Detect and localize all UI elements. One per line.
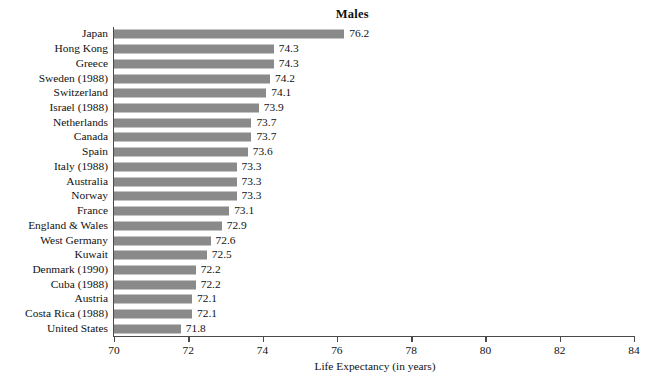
bar (114, 221, 222, 230)
category-label: Norway (71, 191, 108, 202)
bar-value-label: 74.3 (279, 58, 299, 69)
bar-value-label: 72.6 (216, 235, 236, 246)
bar-row: Spain73.6 (0, 145, 668, 160)
category-label: France (77, 205, 108, 216)
bar-row: England & Wales72.9 (0, 218, 668, 233)
bar (114, 30, 344, 39)
bar (114, 310, 192, 319)
bar-value-label: 73.6 (253, 146, 273, 157)
bar (114, 295, 192, 304)
bar-row: France73.1 (0, 204, 668, 219)
bar-row: Israel (1988)73.9 (0, 101, 668, 116)
axis-tick-label: 78 (405, 344, 416, 356)
category-label: Canada (74, 132, 108, 143)
category-label: Kuwait (74, 250, 108, 261)
bar (114, 133, 251, 142)
category-label: Japan (82, 29, 108, 40)
bar (114, 192, 237, 201)
bar-row: Italy (1988)73.3 (0, 160, 668, 175)
bar-value-label: 72.5 (212, 250, 232, 261)
axis-tick-label: 84 (628, 344, 639, 356)
bar-row: Hong Kong74.3 (0, 42, 668, 57)
bar-row: Austria72.1 (0, 292, 668, 307)
bar-row: Greece74.3 (0, 56, 668, 71)
bar-value-label: 72.9 (227, 220, 247, 231)
category-label: Sweden (1988) (39, 73, 108, 84)
bar-row: Denmark (1990)72.2 (0, 263, 668, 278)
bar-row: West Germany72.6 (0, 233, 668, 248)
bar (114, 177, 237, 186)
bar-value-label: 74.2 (275, 73, 295, 84)
bar-value-label: 72.1 (197, 309, 217, 320)
bar-value-label: 74.1 (271, 88, 291, 99)
bar (114, 162, 237, 171)
bar-value-label: 73.1 (234, 205, 254, 216)
category-label: Greece (76, 58, 108, 69)
axis-tick-label: 80 (480, 344, 491, 356)
axis-tick-mark (634, 336, 635, 342)
bar-row: Japan76.2 (0, 27, 668, 42)
axis-tick-mark (485, 336, 486, 342)
bar-row: Kuwait72.5 (0, 248, 668, 263)
bar (114, 207, 229, 216)
bar-value-label: 76.2 (349, 29, 369, 40)
axis-tick-label: 70 (108, 344, 119, 356)
bar (114, 148, 248, 157)
axis-tick-mark (337, 336, 338, 342)
axis-tick-label: 82 (554, 344, 565, 356)
bar-value-label: 71.8 (186, 323, 206, 334)
category-label: United States (47, 323, 108, 334)
axis-tick-label: 76 (331, 344, 342, 356)
bar-value-label: 73.3 (242, 161, 262, 172)
axis-tick-label: 74 (257, 344, 268, 356)
axis-tick-mark (188, 336, 189, 342)
category-label: Israel (1988) (49, 102, 108, 113)
category-label: Cuba (1988) (51, 279, 108, 290)
bar-value-label: 73.7 (256, 117, 276, 128)
category-label: Switzerland (54, 88, 108, 99)
bar (114, 251, 207, 260)
category-label: West Germany (40, 235, 108, 246)
category-label: Denmark (1990) (32, 264, 108, 275)
axis-tick-mark (263, 336, 264, 342)
x-axis-title-text: Life Expectancy (in years) (314, 360, 435, 372)
bar-value-label: 72.2 (201, 264, 221, 275)
plot-area: Japan76.2Hong Kong74.3Greece74.3Sweden (… (0, 0, 668, 385)
bar (114, 236, 211, 245)
category-label: Costa Rica (1988) (25, 309, 108, 320)
bar (114, 266, 196, 275)
axis-tick-mark (411, 336, 412, 342)
bar (114, 45, 274, 54)
bar (114, 118, 251, 127)
bar-row: Costa Rica (1988)72.1 (0, 307, 668, 322)
bar (114, 324, 181, 333)
axis-tick-mark (114, 336, 115, 342)
x-axis-title: Life Expectancy (in years) (0, 360, 668, 372)
bar-row: Sweden (1988)74.2 (0, 71, 668, 86)
category-label: Spain (82, 146, 108, 157)
bar-value-label: 73.9 (264, 102, 284, 113)
category-label: Austria (74, 294, 108, 305)
bar-value-label: 74.3 (279, 43, 299, 54)
bar-value-label: 73.7 (256, 132, 276, 143)
bar (114, 280, 196, 289)
bar (114, 103, 259, 112)
bar-row: Netherlands73.7 (0, 115, 668, 130)
bar (114, 74, 270, 83)
bar-row: Norway73.3 (0, 189, 668, 204)
bar-value-label: 72.1 (197, 294, 217, 305)
bar-value-label: 73.3 (242, 191, 262, 202)
bar-row: United States71.8 (0, 322, 668, 337)
bar-value-label: 72.2 (201, 279, 221, 290)
bar-row: Australia73.3 (0, 174, 668, 189)
bar-row: Canada73.7 (0, 130, 668, 145)
life-expectancy-bar-chart: Males Japan76.2Hong Kong74.3Greece74.3Sw… (0, 0, 668, 385)
category-label: Hong Kong (55, 43, 108, 54)
bar-value-label: 73.3 (242, 176, 262, 187)
bar-row: Switzerland74.1 (0, 86, 668, 101)
category-label: Italy (1988) (54, 161, 108, 172)
bar (114, 59, 274, 68)
bar-row: Cuba (1988)72.2 (0, 277, 668, 292)
axis-tick-label: 72 (183, 344, 194, 356)
category-label: England & Wales (28, 220, 108, 231)
